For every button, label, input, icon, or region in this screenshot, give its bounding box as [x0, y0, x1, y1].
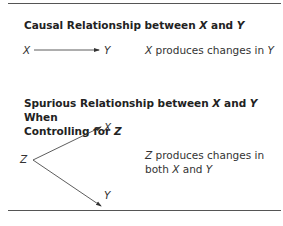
z-to-y-arrow-icon: [33, 160, 101, 206]
bottom-rule: [8, 210, 281, 211]
z-to-x-arrow-icon: [33, 127, 101, 160]
arrows-diagram: [0, 0, 283, 226]
